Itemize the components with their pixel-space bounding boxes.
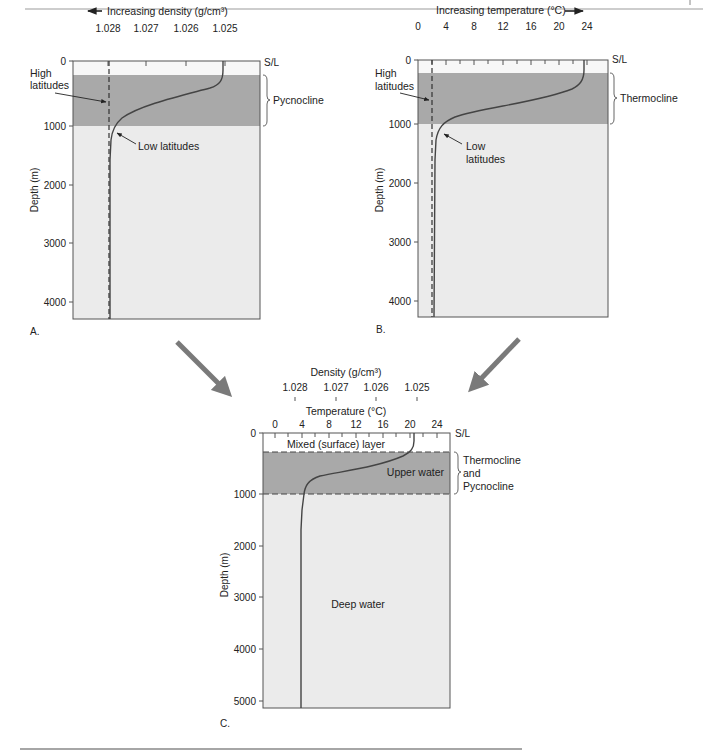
x-tick-label: 4: [299, 419, 305, 430]
y-tick-label: 0: [60, 56, 66, 67]
high-latitudes-label: latitudes: [30, 79, 69, 91]
brace: [610, 73, 617, 124]
y-tick-label: 2000: [234, 541, 257, 552]
surface-label: S/L: [455, 428, 470, 439]
x-tick-label: 12: [350, 419, 362, 430]
high-latitudes-label: High: [375, 67, 397, 79]
x-tick-label: 1.025: [212, 23, 237, 34]
y-tick-label: 2000: [44, 180, 67, 191]
band-label: and: [463, 467, 481, 479]
pycnocline-band: [73, 75, 260, 126]
density-axis-title: Density (g/cm³): [310, 366, 381, 378]
band-label: Thermocline: [463, 454, 521, 466]
x-tick-label: 24: [581, 21, 593, 32]
arrow-a-to-c-icon: [177, 342, 225, 390]
high-latitudes-label: High: [30, 67, 52, 79]
thermocline-band: [418, 73, 608, 124]
y-tick-label: 4000: [389, 296, 412, 307]
x-tick-label: 24: [431, 419, 443, 430]
x-tick-label: 16: [377, 419, 389, 430]
x-tick-label: 8: [326, 419, 332, 430]
x-tick-label: 20: [404, 419, 416, 430]
y-tick-label: 3000: [234, 592, 257, 603]
y-axis-label: Depth (m): [29, 168, 40, 212]
low-latitudes-label: Low: [466, 140, 486, 152]
x-tick-label: 12: [497, 21, 509, 32]
brace: [454, 452, 461, 494]
y-tick-label: 4000: [44, 297, 67, 308]
y-axis-label: Depth (m): [374, 168, 385, 212]
high-latitudes-label: latitudes: [375, 80, 414, 92]
density-tick-label: 1.028: [282, 382, 307, 393]
pycnocline-label: Pycnocline: [273, 94, 324, 106]
panel-a: Increasing density (g/cm³) 1.028 1.027 1…: [29, 5, 324, 337]
upper-water-label: Upper water: [387, 466, 445, 478]
y-tick-label: 3000: [389, 237, 412, 248]
panel-label: B.: [376, 324, 385, 335]
arrow-b-to-c-icon: [475, 339, 519, 385]
panel-label: A.: [30, 326, 39, 337]
low-latitudes-label: Low latitudes: [138, 140, 199, 152]
surface-label: S/L: [612, 54, 627, 65]
x-tick-label: 8: [471, 21, 477, 32]
axis-title: Increasing temperature (°C): [436, 4, 566, 16]
panel-c: Density (g/cm³) 1.028 1.027 1.026 1.025 …: [219, 366, 521, 729]
density-tick-label: 1.025: [404, 382, 429, 393]
y-tick-label: 4000: [234, 644, 257, 655]
surface-label: S/L: [264, 57, 279, 68]
x-tick-label: 0: [415, 21, 421, 32]
y-tick-label: 5000: [234, 696, 257, 707]
panel-b: Increasing temperature (°C) 0 4 8 12 16 …: [374, 4, 678, 335]
x-tick-label: 20: [553, 21, 565, 32]
x-tick-label: 1.026: [173, 23, 198, 34]
y-tick-label: 0: [250, 428, 256, 439]
brace: [263, 75, 270, 126]
x-tick-label: 1.027: [133, 23, 158, 34]
deep-water-label: Deep water: [331, 598, 385, 610]
x-tick-label: 1.028: [95, 23, 120, 34]
axis-title: Increasing density (g/cm³): [107, 5, 228, 17]
y-axis-label: Depth (m): [219, 553, 230, 597]
y-tick-label: 3000: [44, 238, 67, 249]
y-tick-label: 0: [405, 55, 411, 66]
x-tick-label: 0: [272, 419, 278, 430]
thermocline-label: Thermocline: [620, 92, 678, 104]
density-tick-label: 1.027: [323, 382, 348, 393]
low-latitudes-label: latitudes: [466, 153, 505, 165]
x-tick-label: 4: [443, 21, 449, 32]
density-tick-label: 1.026: [363, 382, 388, 393]
y-tick-label: 1000: [389, 119, 412, 130]
x-tick-label: 16: [525, 21, 537, 32]
panel-label: C.: [220, 718, 230, 729]
y-tick-label: 1000: [234, 489, 257, 500]
mixed-layer-label: Mixed (surface) layer: [287, 438, 386, 450]
temperature-axis-title: Temperature (°C): [306, 405, 387, 417]
band-label: Pycnocline: [463, 480, 514, 492]
y-tick-label: 2000: [389, 178, 412, 189]
figure-canvas: Increasing density (g/cm³) 1.028 1.027 1…: [0, 0, 703, 751]
y-tick-label: 1000: [44, 121, 67, 132]
